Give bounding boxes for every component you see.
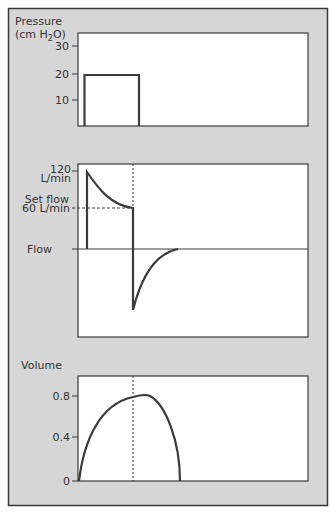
- ventilator-waveform-diagram: Pressure (cm H2O) 30 20 10 120 L/min Set…: [0, 0, 332, 512]
- pressure-plot-area: [78, 33, 308, 126]
- tick-label-10: 10: [55, 94, 69, 107]
- tick-label-0: 0: [63, 475, 70, 488]
- flow-axis-label: Flow: [27, 243, 52, 256]
- set-flow-value: 60 L/min: [22, 202, 70, 215]
- tick-label-0.4: 0.4: [53, 431, 71, 444]
- flow-tick-120-unit: L/min: [40, 172, 71, 185]
- volume-label: Volume: [21, 359, 62, 372]
- flow-plot-area: [78, 164, 308, 337]
- tick-label-20: 20: [55, 68, 69, 81]
- tick-label-30: 30: [55, 40, 69, 53]
- volume-plot-area: [78, 376, 308, 481]
- pressure-label: Pressure: [15, 15, 62, 28]
- tick-label-0.8: 0.8: [53, 390, 71, 403]
